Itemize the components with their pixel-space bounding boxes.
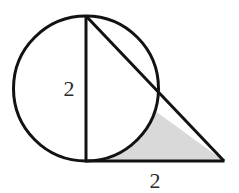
diameter-label: 2 <box>64 76 75 101</box>
geometry-figure: 2 2 <box>0 0 239 193</box>
shaded-region <box>86 111 224 161</box>
base-label: 2 <box>150 168 161 193</box>
geometry-canvas: 2 2 <box>0 0 239 193</box>
